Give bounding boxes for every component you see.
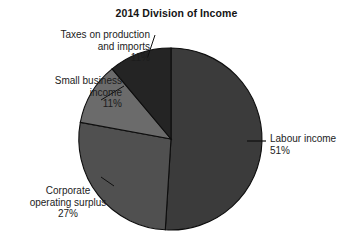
slice-value-labour: 51% (270, 145, 353, 157)
slice-label-small-business-line1: Small business (14, 75, 122, 87)
slice-label-labour-income: Labour income 51% (270, 133, 353, 156)
slice-label-taxes-on-production-and-imports: Taxes on production and imports 11% (46, 29, 150, 64)
slice-label-corporate-line2: operating surplus (8, 197, 128, 209)
pie-chart-figure: 2014 Division of Income Taxes on product… (0, 0, 353, 241)
slice-value-taxes: 11% (46, 52, 150, 64)
slice-value-corporate: 27% (8, 208, 128, 220)
slice-label-corporate-operating-surplus: Corporate operating surplus 27% (8, 185, 128, 220)
slice-value-small-business: 11% (14, 98, 122, 110)
slice-label-taxes-line1: Taxes on production (46, 29, 150, 41)
slice-label-labour-line1: Labour income (270, 133, 353, 145)
slice-label-corporate-line1: Corporate (8, 185, 128, 197)
slice-label-small-business-income: Small business income 11% (14, 75, 122, 110)
slice-label-taxes-line2: and imports (46, 41, 150, 53)
slice-label-small-business-line2: income (14, 87, 122, 99)
pie-slice-labour-income[interactable] (165, 48, 262, 230)
